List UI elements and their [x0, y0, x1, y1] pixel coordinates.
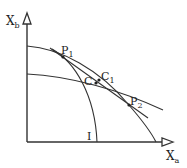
label-p1: P1 [61, 44, 74, 59]
label-c: C [84, 75, 92, 88]
label-c1: C1 [101, 70, 115, 85]
point-c [94, 81, 97, 84]
x-arrow-icon [162, 138, 173, 146]
indifference-curve [52, 49, 97, 142]
label-i: I [87, 130, 91, 143]
diagram-canvas: Xb Xa P1 P2 C C1 I [0, 0, 187, 168]
y-arrow-icon [23, 13, 31, 24]
inner-frontier-curve [27, 74, 163, 110]
x-axis-label: Xa [166, 149, 180, 165]
label-p2: P2 [130, 95, 143, 110]
outer-frontier-curve [27, 46, 156, 142]
y-axis-label: Xb [6, 14, 20, 30]
